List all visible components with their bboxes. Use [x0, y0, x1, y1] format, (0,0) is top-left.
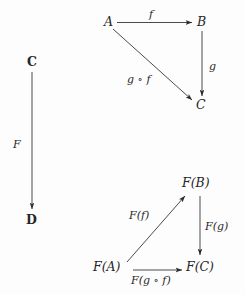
edge-label-g: g — [209, 61, 216, 72]
node-target-category-d: D — [26, 214, 37, 227]
edge-label-fg: F(g) — [205, 221, 228, 232]
arrow-fa-to-fb — [127, 196, 185, 262]
node-object-fa: F(A) — [93, 261, 120, 274]
edge-label-ff: F(f) — [129, 210, 149, 221]
commutative-diagram: C F D A B C f g g ∘ f F(A) F(B) F(C) F(f… — [0, 0, 245, 295]
node-object-a: A — [104, 16, 113, 29]
edge-label-fgf: F(g ∘ f) — [131, 275, 171, 286]
node-object-c: C — [196, 99, 206, 112]
arrow-layer — [0, 0, 245, 295]
node-object-fc: F(C) — [186, 261, 214, 274]
node-source-category-c: C — [27, 56, 37, 69]
node-object-b: B — [197, 16, 206, 29]
edge-label-g-after-f: g ∘ f — [127, 74, 151, 85]
arrow-a-to-c — [113, 29, 192, 100]
edge-label-f: f — [149, 9, 153, 20]
edge-label-functor-f: F — [13, 139, 21, 150]
node-object-fb: F(B) — [182, 177, 210, 190]
